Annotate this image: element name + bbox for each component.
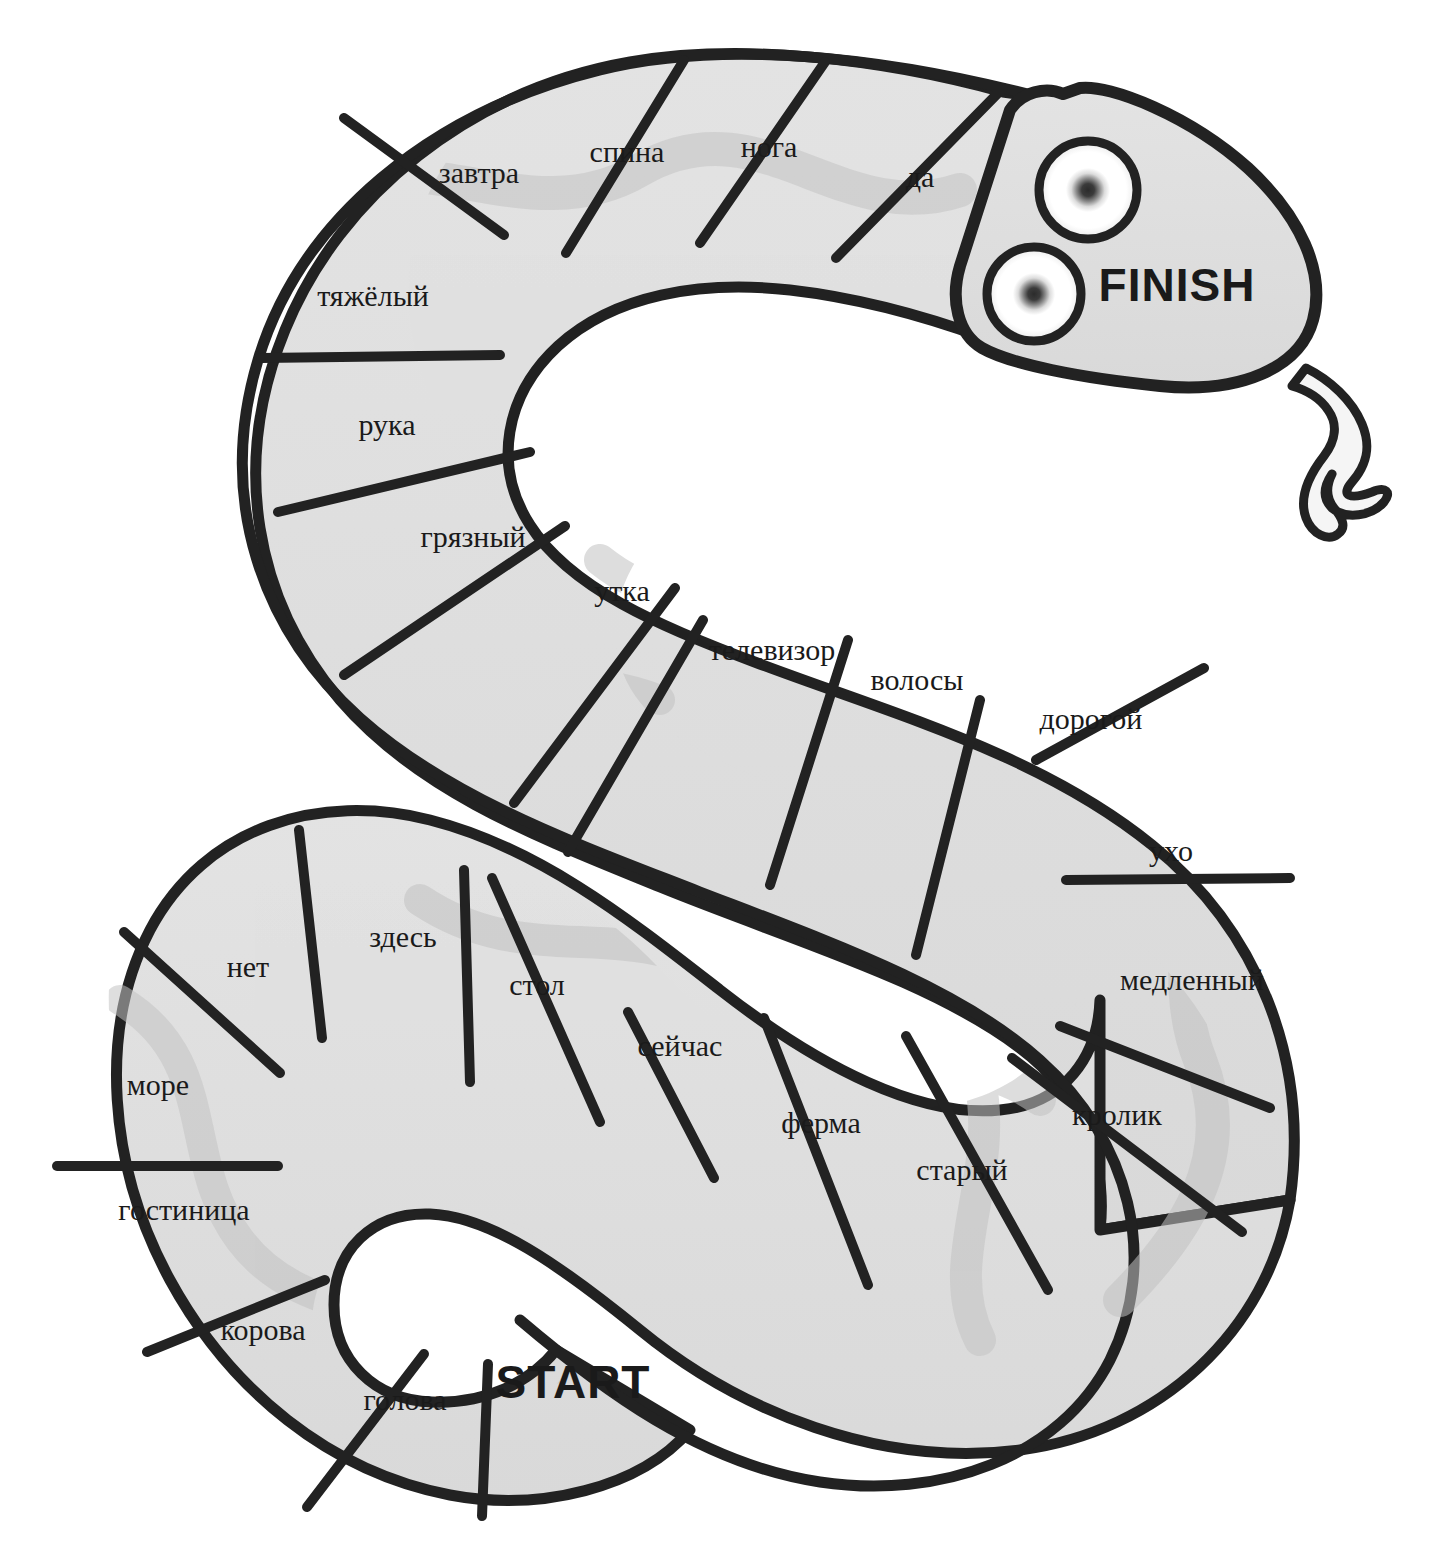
cell-label-14: дорогой bbox=[1040, 702, 1143, 735]
cell-label-22: спина bbox=[590, 135, 665, 168]
cell-label-6: здесь bbox=[369, 920, 437, 953]
start-label: START bbox=[496, 1356, 651, 1408]
cell-label-5: нет bbox=[227, 950, 269, 983]
cell-label-8: сейчас bbox=[638, 1029, 723, 1062]
snake-board-svg: FINISH START голова корова гостиница мор… bbox=[0, 0, 1434, 1549]
snake-head-shape bbox=[956, 88, 1317, 388]
cell-label-18: грязный bbox=[420, 520, 525, 553]
upper-eye-icon bbox=[1039, 141, 1137, 239]
cell-label-23: нога bbox=[741, 130, 798, 163]
cell-label-12: медленный bbox=[1120, 963, 1264, 996]
cell-label-20: тяжёлый bbox=[317, 279, 429, 312]
cell-label-1: голова bbox=[363, 1383, 446, 1416]
cell-label-7: стол bbox=[509, 968, 565, 1001]
cell-label-13: ухо bbox=[1149, 834, 1193, 867]
cell-label-9: ферма bbox=[781, 1106, 860, 1139]
cell-label-2: корова bbox=[220, 1313, 305, 1346]
cell-label-15: волосы bbox=[871, 663, 964, 696]
cell-label-24: да bbox=[906, 160, 935, 193]
snake-head: FINISH bbox=[956, 88, 1317, 388]
snake-board-game: FINISH START голова корова гостиница мор… bbox=[0, 0, 1434, 1549]
tongue-shape bbox=[1292, 368, 1388, 537]
cell-label-21: завтра bbox=[439, 156, 519, 189]
snake-tongue bbox=[1292, 368, 1388, 537]
cell-label-11: кролик bbox=[1072, 1098, 1162, 1131]
lower-eye-icon bbox=[987, 247, 1081, 341]
cell-label-19: рука bbox=[358, 408, 415, 441]
cell-label-4: море bbox=[127, 1068, 189, 1101]
cell-label-10: старый bbox=[916, 1153, 1007, 1186]
cell-label-3: гостиница bbox=[118, 1193, 249, 1226]
finish-label: FINISH bbox=[1099, 259, 1256, 311]
cell-label-17: утка bbox=[594, 574, 650, 607]
start-cell[interactable]: START bbox=[496, 1356, 651, 1408]
cell-label-16: телевизор bbox=[709, 633, 836, 666]
